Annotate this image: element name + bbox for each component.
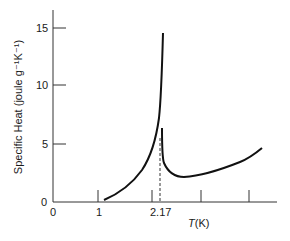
x-axis-title: T(K): [188, 217, 209, 229]
x-tick-label-0: 0: [50, 206, 56, 218]
x-axis-unit: (K): [195, 217, 210, 229]
specific-heat-chart: 15 10 5 0 0 1 2.17 T(K) Specific Heat (j…: [0, 0, 290, 241]
y-axis-title: Specific Heat (joule g⁻¹K⁻¹): [12, 40, 24, 174]
curve-above-lambda: [162, 128, 262, 177]
y-tick-label-0: 0: [41, 196, 47, 208]
y-tick-label-15: 15: [36, 22, 48, 34]
x-tick-label-2-17: 2.17: [150, 206, 171, 218]
y-tick-label-10: 10: [36, 79, 48, 91]
y-tick-label-5: 5: [42, 138, 48, 150]
x-tick-label-1: 1: [96, 206, 102, 218]
curve-below-lambda: [104, 33, 163, 200]
y-ticks: [53, 28, 66, 144]
